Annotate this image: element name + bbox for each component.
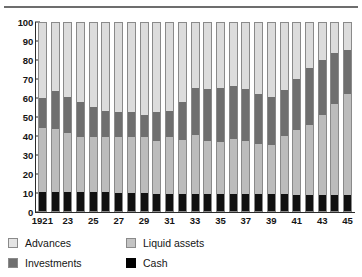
bar-segment-liquid-assets — [255, 144, 262, 194]
y-axis-tick-label: 0 — [3, 207, 33, 218]
bar-segment-investments — [77, 102, 84, 137]
bar-segment-investments — [281, 90, 288, 136]
bar-1937 — [241, 22, 250, 212]
bar-segment-liquid-assets — [102, 137, 109, 192]
bar-segment-investments — [230, 86, 237, 139]
bar-segment-cash — [192, 194, 199, 211]
bar-1945 — [343, 22, 352, 212]
bar-segment-liquid-assets — [293, 130, 300, 195]
bar-segment-liquid-assets — [331, 104, 338, 195]
y-axis-labels: 0102030405060708090100 — [0, 0, 33, 277]
legend-label: Liquid assets — [143, 237, 204, 249]
x-axis-tick-label: 37 — [241, 215, 252, 226]
bar-segment-liquid-assets — [115, 137, 122, 193]
bar-1924 — [76, 22, 85, 212]
x-axis-tick-label: 23 — [63, 215, 74, 226]
bar-segment-cash — [268, 194, 275, 211]
y-axis-tick-label: 20 — [3, 169, 33, 180]
legend-item-advances[interactable]: Advances — [8, 237, 71, 249]
bar-segment-liquid-assets — [52, 129, 59, 192]
x-axis-tick-label: 33 — [190, 215, 201, 226]
bar-segment-liquid-assets — [192, 135, 199, 194]
bar-segment-cash — [166, 194, 173, 211]
y-axis-tick-label: 40 — [3, 131, 33, 142]
bar-segment-cash — [90, 192, 97, 211]
bar-segment-investments — [306, 68, 313, 125]
bar-segment-cash — [217, 194, 224, 211]
bar-segment-investments — [319, 60, 326, 115]
bar-segment-cash — [204, 194, 211, 211]
bar-segment-liquid-assets — [90, 137, 97, 192]
legend-item-liquid[interactable]: Liquid assets — [126, 237, 204, 249]
bar-segment-liquid-assets — [217, 142, 224, 194]
bar-segment-investments — [166, 111, 173, 137]
bar-segment-investments — [217, 88, 224, 141]
bar-1943 — [318, 22, 327, 212]
bar-segment-cash — [128, 193, 135, 211]
x-axis-tick-label: 29 — [139, 215, 150, 226]
bar-segment-investments — [153, 112, 160, 141]
bar-segment-liquid-assets — [128, 137, 135, 193]
bar-segment-cash — [141, 193, 148, 211]
x-axis-tick-label: 43 — [317, 215, 328, 226]
chart-page: 0102030405060708090100 19212325272931333… — [0, 0, 362, 277]
y-axis-tick-label: 60 — [3, 93, 33, 104]
bar-1936 — [229, 22, 238, 212]
bar-1938 — [254, 22, 263, 212]
bar-segment-investments — [179, 102, 186, 140]
y-axis-tick-label: 80 — [3, 55, 33, 66]
bar-segment-liquid-assets — [166, 137, 173, 194]
bar-segment-cash — [179, 194, 186, 211]
bar-segment-liquid-assets — [242, 141, 249, 194]
bar-segment-cash — [281, 194, 288, 211]
bar-1926 — [101, 22, 110, 212]
bar-segment-investments — [268, 97, 275, 145]
x-axis-tick-label: 39 — [266, 215, 277, 226]
bar-segment-liquid-assets — [77, 137, 84, 192]
bar-1922 — [51, 22, 60, 212]
legend-item-cash[interactable]: Cash — [126, 257, 168, 269]
top-divider-rule — [4, 6, 358, 8]
bar-1935 — [216, 22, 225, 212]
legend-swatch-cash-icon — [126, 258, 136, 268]
bar-segment-cash — [153, 194, 160, 211]
bar-segment-cash — [52, 192, 59, 211]
x-axis-tick-label: 1921 — [32, 215, 53, 226]
bar-segment-liquid-assets — [39, 128, 46, 192]
bar-segment-investments — [39, 98, 46, 128]
bar-segment-investments — [52, 91, 59, 129]
y-axis-tick-label: 70 — [3, 74, 33, 85]
bar-1928 — [127, 22, 136, 212]
bar-segment-cash — [255, 194, 262, 211]
x-axis-tick-label: 31 — [164, 215, 175, 226]
bar-segment-liquid-assets — [268, 145, 275, 194]
legend-swatch-advances-icon — [8, 238, 18, 248]
bar-1931 — [165, 22, 174, 212]
x-axis-tick-label: 41 — [291, 215, 302, 226]
legend-item-invest[interactable]: Investments — [8, 257, 82, 269]
bar-segment-liquid-assets — [344, 94, 351, 195]
bar-segment-liquid-assets — [204, 141, 211, 194]
x-axis-line — [35, 212, 355, 213]
bar-segment-investments — [141, 115, 148, 137]
bar-segment-investments — [331, 53, 338, 103]
y-axis-tick-label: 50 — [3, 112, 33, 123]
bar-segment-liquid-assets — [281, 136, 288, 194]
legend-label: Cash — [143, 257, 168, 269]
bar-1921 — [38, 22, 47, 212]
bar-1923 — [63, 22, 72, 212]
bar-segment-cash — [102, 192, 109, 211]
y-axis-tick-label: 10 — [3, 188, 33, 199]
bar-segment-cash — [319, 195, 326, 211]
bar-1933 — [191, 22, 200, 212]
bar-segment-cash — [242, 194, 249, 211]
bar-segment-liquid-assets — [319, 115, 326, 195]
bar-segment-liquid-assets — [141, 137, 148, 193]
bar-segment-investments — [115, 112, 122, 137]
bar-1925 — [89, 22, 98, 212]
bar-1944 — [330, 22, 339, 212]
legend-label: Advances — [25, 237, 71, 249]
bar-segment-investments — [192, 88, 199, 135]
y-axis-tick-label: 90 — [3, 36, 33, 47]
legend-swatch-liquid-icon — [126, 238, 136, 248]
